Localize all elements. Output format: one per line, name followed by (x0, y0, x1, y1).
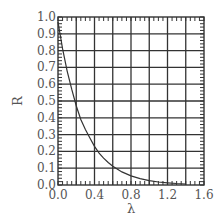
x-tick-label: 1.6 (194, 188, 213, 202)
chart: 0.00.40.81.21.6 0.00.10.20.30.40.50.60.7… (0, 0, 222, 221)
y-tick-label: 0.2 (37, 144, 56, 158)
series-layer (58, 22, 186, 184)
x-tick-label: 0.8 (121, 188, 140, 202)
y-tick-label: 0.9 (37, 27, 56, 41)
grid-layer (58, 17, 204, 185)
y-tick-label: 1.0 (37, 10, 56, 24)
x-tick-label: 0.4 (85, 188, 104, 202)
y-tick-label: 0.3 (37, 128, 56, 142)
x-tick-labels: 0.00.40.81.21.6 (48, 188, 213, 202)
y-tick-label: 0.0 (37, 178, 56, 192)
y-tick-label: 0.4 (37, 111, 56, 125)
series-line (58, 22, 186, 184)
y-tick-label: 0.8 (37, 44, 56, 58)
y-tick-labels: 0.00.10.20.30.40.50.60.70.80.91.0 (37, 10, 56, 192)
y-axis-title: R (10, 95, 25, 106)
y-tick-label: 0.7 (37, 60, 56, 74)
y-tick-label: 0.1 (37, 161, 56, 175)
x-axis-title: λ (127, 201, 135, 216)
y-tick-label: 0.5 (37, 94, 56, 108)
x-tick-label: 1.2 (158, 188, 177, 202)
y-tick-label: 0.6 (37, 77, 56, 91)
